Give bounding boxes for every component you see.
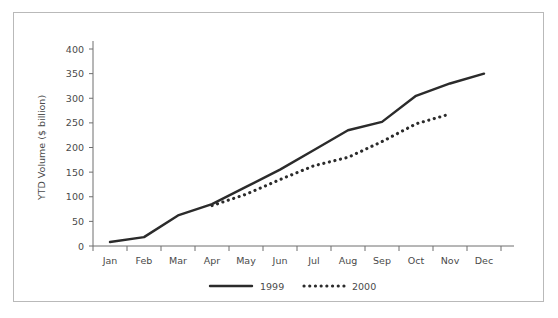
y-tick-label: 250 bbox=[66, 117, 84, 128]
legend-label-2000: 2000 bbox=[352, 281, 376, 292]
x-tick-label: Jul bbox=[307, 255, 319, 266]
legend-label-1999: 1999 bbox=[260, 281, 284, 292]
y-axis-tick-labels: 050100150200250300350400 bbox=[66, 44, 84, 252]
line-chart: 050100150200250300350400 JanFebMarAprMay… bbox=[14, 13, 544, 302]
y-tick-label: 400 bbox=[66, 44, 84, 55]
x-tick-label: Dec bbox=[475, 255, 493, 266]
y-tick-label: 300 bbox=[66, 93, 84, 104]
x-tick-label: Apr bbox=[204, 255, 221, 266]
x-tick-label: Oct bbox=[408, 255, 425, 266]
series-line-1999 bbox=[110, 74, 484, 242]
x-tick-label: Feb bbox=[136, 255, 153, 266]
x-tick-label: Nov bbox=[441, 255, 460, 266]
x-tick-label: Mar bbox=[169, 255, 187, 266]
y-tick-label: 100 bbox=[66, 191, 84, 202]
y-tick-label: 150 bbox=[66, 167, 84, 178]
y-tick-label: 200 bbox=[66, 142, 84, 153]
series-line-2000 bbox=[212, 114, 450, 206]
y-tick-label: 50 bbox=[72, 216, 84, 227]
y-tick-label: 0 bbox=[78, 241, 84, 252]
x-axis-tick-labels: JanFebMarAprMayJunJulAugSepOctNovDec bbox=[102, 255, 494, 266]
chart-figure: 050100150200250300350400 JanFebMarAprMay… bbox=[13, 12, 544, 302]
y-axis-tick-marks bbox=[89, 49, 93, 246]
y-tick-label: 350 bbox=[66, 68, 84, 79]
x-tick-label: Aug bbox=[339, 255, 358, 266]
x-tick-label: Sep bbox=[373, 255, 391, 266]
y-axis-title: YTD Volume ($ billion) bbox=[36, 95, 47, 201]
chart-legend: 1999 2000 bbox=[210, 281, 376, 292]
x-tick-label: May bbox=[236, 255, 256, 266]
x-axis-tick-marks bbox=[93, 246, 501, 251]
x-tick-label: Jun bbox=[272, 255, 288, 266]
x-tick-label: Jan bbox=[102, 255, 118, 266]
